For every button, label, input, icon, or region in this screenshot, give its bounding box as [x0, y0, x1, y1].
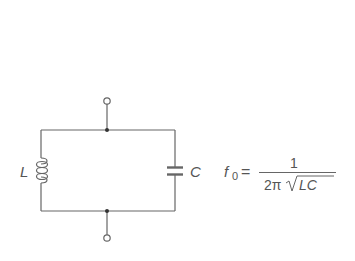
- formula-two-pi: 2π: [264, 177, 282, 193]
- capacitor-label: C: [190, 163, 201, 180]
- bottom-junction-dot: [105, 209, 109, 213]
- top-junction-dot: [105, 128, 109, 132]
- formula-numerator: 1: [290, 155, 298, 171]
- resonance-formula: f 0 = 1 2π LC: [224, 155, 336, 193]
- formula-radicand: LC: [299, 177, 318, 193]
- formula-subscript: 0: [232, 170, 238, 182]
- inductor-icon: [37, 158, 48, 183]
- capacitor-icon: [167, 168, 183, 175]
- inductor-label: L: [20, 163, 28, 180]
- top-terminal: [104, 98, 110, 104]
- formula-equals: =: [241, 163, 250, 180]
- bottom-terminal: [104, 235, 110, 241]
- formula-f: f: [224, 163, 230, 180]
- lc-circuit-diagram: L C f 0 = 1 2π LC: [0, 0, 355, 261]
